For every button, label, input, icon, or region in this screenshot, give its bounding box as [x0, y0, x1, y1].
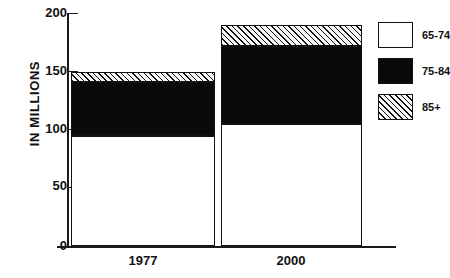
bar-2000-segment-85plus	[221, 25, 362, 46]
bar-1977-segment-65-74	[71, 136, 215, 246]
x-axis-line	[57, 246, 396, 248]
y-tick-label-100: 100	[33, 122, 67, 135]
y-tick-label-150: 150	[33, 64, 67, 77]
bar-2000	[221, 25, 362, 246]
legend-swatch-65-74	[378, 22, 413, 48]
bar-1977	[71, 72, 215, 246]
x-tick-label-2000: 2000	[249, 253, 333, 268]
legend-label-75-84: 75-84	[422, 65, 450, 77]
y-axis-title: IN MILLIONS	[27, 34, 42, 174]
legend-label-65-74: 65-74	[422, 29, 450, 41]
legend-swatch-85plus	[378, 94, 413, 120]
legend: 65-74 75-84 85+	[378, 0, 447, 135]
bar-1977-segment-75-84	[71, 82, 215, 137]
x-tick-label-1977: 1977	[101, 253, 185, 268]
legend-item-65-74: 65-74	[378, 22, 450, 48]
legend-item-85plus: 85+	[378, 94, 441, 120]
legend-item-75-84: 75-84	[378, 58, 450, 84]
y-tick-label-200: 200	[33, 6, 67, 19]
bar-2000-segment-75-84	[221, 46, 362, 124]
y-tick-label-50: 50	[33, 179, 67, 192]
bar-2000-segment-65-74	[221, 124, 362, 246]
legend-label-85plus: 85+	[422, 101, 441, 113]
bar-1977-segment-85plus	[71, 72, 215, 81]
legend-swatch-75-84	[378, 58, 413, 84]
y-tick-mark-200	[68, 13, 78, 14]
y-axis-line	[67, 13, 69, 247]
